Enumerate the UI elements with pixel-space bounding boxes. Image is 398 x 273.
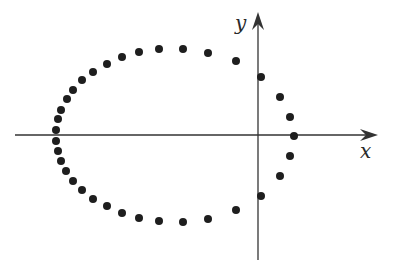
data-point (78, 76, 86, 84)
data-point (118, 209, 126, 217)
data-point (69, 86, 77, 94)
data-point (57, 157, 65, 165)
data-point (155, 45, 163, 53)
x-axis-label: x (360, 139, 371, 163)
data-point (69, 177, 77, 185)
data-point (89, 195, 97, 203)
data-point (257, 192, 265, 200)
data-point (204, 49, 212, 57)
data-point (286, 152, 294, 160)
data-point (257, 73, 265, 81)
data-point (155, 217, 163, 225)
data-point (135, 214, 143, 222)
data-point (57, 106, 65, 114)
data-point (286, 113, 294, 121)
data-point (118, 53, 126, 61)
data-point (276, 93, 284, 101)
data-point (89, 68, 97, 76)
diagram-canvas: x y (0, 0, 398, 273)
data-point (54, 147, 62, 155)
data-point (54, 115, 62, 123)
data-point (63, 95, 71, 103)
data-point (179, 218, 187, 226)
data-point (179, 45, 187, 53)
data-point (52, 137, 60, 145)
data-point (276, 172, 284, 180)
data-point (232, 57, 240, 65)
data-point (62, 167, 70, 175)
data-point (78, 186, 86, 194)
data-point (232, 206, 240, 214)
data-point (52, 126, 60, 134)
data-point (135, 48, 143, 56)
data-point (204, 215, 212, 223)
data-point (103, 202, 111, 210)
y-axis-label: y (234, 11, 247, 35)
data-point (290, 132, 298, 140)
data-point (103, 60, 111, 68)
